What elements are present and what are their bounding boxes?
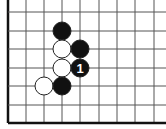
black-stone <box>53 77 71 95</box>
white-stone <box>53 59 71 77</box>
white-stone <box>35 77 53 95</box>
board-grid <box>8 0 166 123</box>
black-stone: 1 <box>71 59 89 77</box>
white-stone <box>53 40 71 58</box>
black-stone <box>71 40 89 58</box>
move-number-label: 1 <box>76 61 83 76</box>
stones-layer: 1 <box>35 22 89 95</box>
go-board: 1 <box>0 0 166 129</box>
black-stone <box>53 22 71 40</box>
